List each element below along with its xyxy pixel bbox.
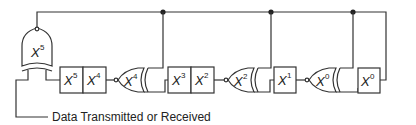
- xor-gate-x4: X4: [114, 68, 148, 92]
- data-io-caption: Data Transmitted or Received: [52, 110, 211, 124]
- svg-text:4: 4: [133, 72, 138, 81]
- svg-text:2: 2: [204, 71, 209, 80]
- lfsr-diagram: X 5 X5 X4 X4 X3 X2 X2 X1 X0 X0: [0, 0, 416, 125]
- svg-text:5: 5: [73, 71, 78, 80]
- data-io-wire: [16, 70, 48, 117]
- svg-text:4: 4: [96, 71, 101, 80]
- xor-gate-x2: X2: [224, 68, 258, 92]
- svg-text:1: 1: [287, 71, 292, 80]
- gate-to-x5-wire: [46, 70, 60, 80]
- tap-wire-x2: [258, 12, 271, 68]
- xor-gate-x0: X0: [305, 68, 340, 92]
- svg-text:2: 2: [243, 72, 248, 81]
- svg-text:0: 0: [370, 72, 375, 81]
- tap-wire-x0: [340, 12, 353, 68]
- tap-wire-x4: [148, 12, 163, 68]
- feedback-xor-gate: X 5: [22, 27, 52, 71]
- svg-text:0: 0: [325, 72, 330, 81]
- svg-text:3: 3: [181, 71, 186, 80]
- svg-text:5: 5: [40, 43, 45, 52]
